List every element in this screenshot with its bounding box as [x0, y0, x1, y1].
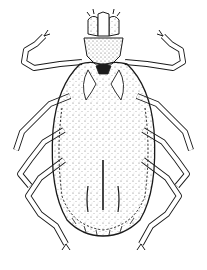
body: [52, 62, 154, 236]
capitulum: [84, 9, 123, 64]
tick-illustration: tick: [0, 0, 207, 270]
tick-drawing: [0, 0, 207, 270]
